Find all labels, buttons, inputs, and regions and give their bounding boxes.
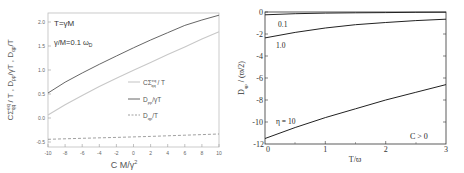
left-ytick-label: 0.5	[38, 91, 45, 97]
curve-eta-1-0	[265, 19, 446, 38]
left-ytick-label: 0.0	[38, 115, 45, 121]
left-xtick-label: -6	[80, 150, 85, 156]
left-xtick-label: 8	[201, 150, 204, 156]
left-xtick-label: 4	[166, 150, 169, 156]
legend-csigma: CΣeqqq / T	[143, 78, 165, 88]
condition-label: C > 0	[410, 132, 428, 141]
curve-label-eta-0-1: 0.1	[278, 20, 288, 29]
right-xtick-label: 0	[266, 145, 270, 154]
curve-label-eta-10: η = 10	[276, 117, 296, 126]
right-y-axis-label: Dqp / (ϖ/2)	[237, 61, 248, 95]
figure: 2.0 1.5 1.0 0.5 0.0 -0.5 -10 -8 -6 -4 -2	[0, 0, 464, 173]
left-plot-frame	[48, 13, 219, 147]
left-ytick-label: 2.0	[38, 19, 45, 25]
curve-eta-10	[265, 85, 446, 139]
left-ytick-label: 1.0	[38, 67, 45, 73]
left-annotation-t-eq: T=γM	[54, 19, 75, 28]
curve-label-eta-1-0: 1.0	[276, 41, 286, 50]
legend-dpp: Dpp/γT	[143, 96, 161, 105]
right-ytick-label: -4	[256, 52, 263, 61]
right-chart: 0 -2 -4 -6 -8 -10 -12 0 1 2 3 T/ϖ Dqp / …	[237, 8, 448, 164]
legend-dqp: Dqp/T	[143, 112, 158, 121]
curve-eta-0-1	[265, 12, 446, 15]
left-xtick-label: 0	[132, 150, 135, 156]
left-y-axis: 2.0 1.5 1.0 0.5 0.0 -0.5	[36, 19, 51, 145]
right-x-axis-label: T/ϖ	[349, 155, 361, 164]
right-ytick-label: -12	[253, 140, 264, 149]
right-xtick-label: 2	[384, 145, 388, 154]
left-xtick-label: -10	[44, 150, 51, 156]
left-xtick-label: -8	[63, 150, 68, 156]
right-y-axis: 0 -2 -4 -6 -8 -10 -12	[252, 8, 446, 149]
right-x-axis: 0 1 2 3	[266, 141, 448, 154]
right-ytick-label: 0	[259, 8, 263, 17]
left-annotation-gamma-ratio: γ/M=0.1 ωD	[54, 38, 93, 48]
right-ytick-label: -10	[252, 118, 263, 127]
left-chart: 2.0 1.5 1.0 0.5 0.0 -0.5 -10 -8 -6 -4 -2	[5, 13, 222, 170]
left-xtick-label: 6	[183, 150, 186, 156]
right-xtick-label: 1	[323, 145, 327, 154]
svg-text:Dqp / (ϖ/2): Dqp / (ϖ/2)	[237, 61, 248, 95]
svg-text:CΣeqqq / T , Dpp/γT , Dqp/T: CΣeqqq / T , Dpp/γT , Dqp/T	[5, 39, 16, 120]
right-ytick-label: -8	[256, 96, 263, 105]
left-ytick-label: 1.5	[38, 43, 45, 49]
right-xtick-label: 3	[444, 145, 448, 154]
left-xtick-label: -2	[114, 150, 119, 156]
left-xtick-label: 10	[216, 150, 222, 156]
right-ytick-label: -2	[256, 30, 263, 39]
left-legend: CΣeqqq / T Dpp/γT Dqp/T	[128, 78, 165, 121]
left-ytick-label: -0.5	[36, 139, 45, 145]
left-x-axis-label: C M/γ2	[111, 159, 138, 170]
left-xtick-label: 2	[149, 150, 152, 156]
left-xtick-label: -4	[97, 150, 102, 156]
left-y-axis-label: CΣeqqq / T , Dpp/γT , Dqp/T	[5, 39, 16, 120]
left-x-axis: -10 -8 -6 -4 -2 0 2 4 6 8 10	[44, 144, 222, 156]
right-ytick-label: -6	[256, 74, 263, 83]
curve-dqp	[48, 134, 219, 139]
